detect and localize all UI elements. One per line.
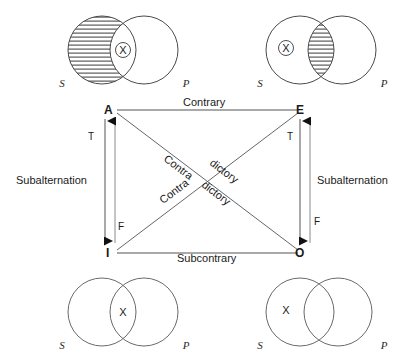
corner-label-e: E xyxy=(296,104,304,116)
subcontrary-label: Subcontrary xyxy=(177,253,236,264)
corner-label-o: O xyxy=(295,247,304,259)
truth-marker-left-bottom: F xyxy=(118,222,124,232)
contrary-label: Contrary xyxy=(183,97,225,108)
subalternation-left-label: Subalternation xyxy=(16,175,87,186)
square-of-opposition-figure: X S P xyxy=(0,0,409,362)
subalternation-right-label: Subalternation xyxy=(317,175,388,186)
truth-marker-left-top: T xyxy=(88,132,94,142)
corner-label-a: A xyxy=(104,104,113,116)
truth-marker-right-top: T xyxy=(287,132,293,142)
corner-label-i: I xyxy=(106,247,109,259)
truth-marker-right-bottom: F xyxy=(314,217,320,227)
